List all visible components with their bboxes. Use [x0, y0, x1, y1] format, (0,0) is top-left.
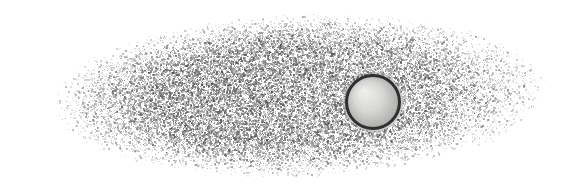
micrograph-figure: Grayscale micrograph: elongated cloud of…: [0, 0, 573, 190]
speckle-field-canvas: [0, 0, 573, 190]
